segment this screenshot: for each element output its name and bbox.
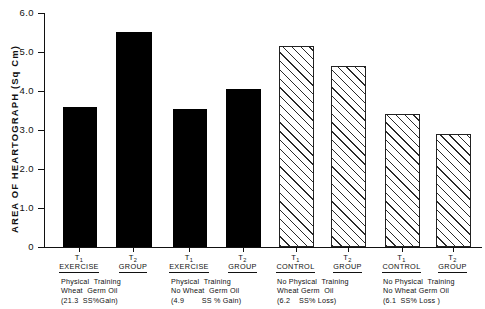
group-caption-line: Physical Training [171, 277, 241, 286]
bar [226, 89, 261, 247]
bar-label-name: CONTROL [382, 263, 420, 273]
group-caption: No Physical TrainingNo Wheat Germ Oil(6.… [383, 277, 455, 305]
group-caption-line: Wheat Germ Oil [277, 286, 349, 295]
y-tick-label: 3.0 [0, 124, 34, 135]
bar-label-name: GROUP [119, 263, 148, 273]
group-caption-line: Physical Training [61, 277, 121, 286]
bar-label: T2GROUP [423, 254, 483, 273]
bar-label: T2GROUP [318, 254, 378, 273]
bar-label-name: CONTROL [276, 263, 314, 273]
x-tick [189, 248, 190, 252]
group-caption-line: No Wheat Germ Oil [383, 286, 455, 295]
group-caption: No Physical TrainingWheat Germ Oil(6.2 S… [277, 277, 349, 305]
bar-label: T2GROUP [213, 254, 273, 273]
bar-label-name: EXERCISE [169, 263, 209, 273]
bar-label: T1EXERCISE [159, 254, 219, 273]
bar [63, 107, 97, 247]
y-axis-title: AREA OF HEARTOGRAPH (Sq Cm) [9, 24, 27, 254]
bar-label-symbol: T2 [318, 254, 378, 262]
x-tick [133, 248, 134, 252]
x-tick [453, 248, 454, 252]
bar [279, 46, 314, 247]
y-tick-label: 4.0 [0, 85, 34, 96]
group-caption-line: (6.2 SS% Loss) [277, 296, 349, 305]
bar-label: T1CONTROL [266, 254, 326, 273]
bars-layer [44, 13, 482, 247]
group-caption-line: (6.1 SS% Loss ) [383, 296, 455, 305]
bar-chart: AREA OF HEARTOGRAPH (Sq Cm) 6.05.04.03.0… [0, 0, 485, 309]
group-caption-line: No Physical Training [277, 277, 349, 286]
group-caption: Physical TrainingNo Wheat Germ Oil(4.9 S… [171, 277, 241, 305]
bar-label-symbol: T1 [266, 254, 326, 262]
x-tick [79, 248, 80, 252]
bar [173, 109, 207, 248]
group-caption-line: Wheat Germ Oil [61, 286, 121, 295]
group-caption: Physical TrainingWheat Germ Oil(21.3 SS%… [61, 277, 121, 305]
group-caption-line: (21.3 SS%Gain) [61, 296, 121, 305]
group-caption-line: No Wheat Germ Oil [171, 286, 241, 295]
bar [116, 32, 152, 247]
bar-label: T1EXERCISE [49, 254, 109, 273]
y-tick-label: 2.0 [0, 163, 34, 174]
bar-label-name: GROUP [438, 263, 467, 273]
bar-label-name: GROUP [228, 263, 257, 273]
bar-label-symbol: T2 [213, 254, 273, 262]
y-tick-label: 0 [0, 241, 34, 252]
bar-label: T2GROUP [103, 254, 163, 273]
y-tick-label: 6.0 [0, 7, 34, 18]
x-tick [402, 248, 403, 252]
bar-label-name: GROUP [333, 263, 362, 273]
x-tick [348, 248, 349, 252]
x-tick [243, 248, 244, 252]
x-tick [296, 248, 297, 252]
bar [331, 66, 366, 247]
group-caption-line: (4.9 SS % Gain) [171, 296, 241, 305]
bar-label-symbol: T2 [423, 254, 483, 262]
bar [385, 114, 420, 247]
group-caption-line: No Physical Training [383, 277, 455, 286]
y-tick-label: 5.0 [0, 46, 34, 57]
bar [436, 134, 471, 247]
bar-label-name: EXERCISE [59, 263, 99, 273]
y-tick-label: 1.0 [0, 202, 34, 213]
x-axis-line [44, 247, 482, 248]
